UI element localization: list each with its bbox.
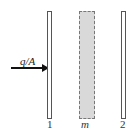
plate-2 <box>121 11 126 119</box>
heat-flux-label: q/A <box>20 55 35 67</box>
heat-flux-arrow-icon <box>11 67 43 69</box>
plate-1 <box>47 11 52 119</box>
radiation-shield-m <box>79 11 95 119</box>
shield-m-label: m <box>81 118 89 130</box>
plate-1-label: 1 <box>47 118 53 130</box>
plate-2-label: 2 <box>120 118 126 130</box>
